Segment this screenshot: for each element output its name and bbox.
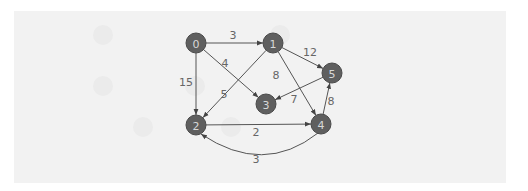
- node-4: 4: [311, 114, 331, 134]
- node-1: 1: [263, 33, 283, 53]
- edge-weight-1-to-5: 12: [303, 46, 317, 59]
- node-3: 3: [256, 94, 276, 114]
- edge-weight-4-to-2: 3: [253, 153, 260, 166]
- node-5: 5: [322, 63, 342, 83]
- node-label: 3: [263, 99, 270, 112]
- edge-weight-0-to-3: 4: [222, 57, 229, 70]
- node-label: 0: [193, 38, 200, 51]
- edge-weight-1-to-4: 8: [273, 69, 280, 82]
- node-2: 2: [186, 115, 206, 135]
- edge-4-to-2: [201, 133, 318, 155]
- edge-weight-0-to-2: 15: [179, 76, 193, 89]
- edge-0-to-3: [204, 50, 259, 98]
- edge-weight-1-to-2: 5: [221, 88, 228, 101]
- nodes-layer: 012345: [186, 33, 342, 135]
- graph-canvas: 341512857823 012345: [0, 0, 528, 191]
- edge-weight-2-to-4: 2: [253, 126, 260, 139]
- node-label: 5: [329, 68, 336, 81]
- edge-weight-4-to-5: 8: [328, 95, 335, 108]
- edge-weight-0-to-1: 3: [230, 29, 237, 42]
- node-label: 4: [318, 119, 325, 132]
- node-label: 1: [270, 38, 277, 51]
- edge-weight-5-to-3: 7: [291, 93, 298, 106]
- edge-5-to-3: [275, 77, 323, 99]
- node-0: 0: [186, 33, 206, 53]
- node-label: 2: [193, 120, 200, 133]
